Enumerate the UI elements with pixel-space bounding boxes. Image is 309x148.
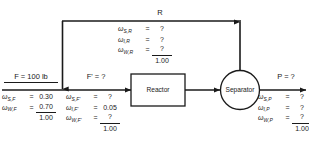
composition-value: ? — [152, 44, 172, 56]
omega-symbol: ωI,P — [258, 103, 283, 114]
omega-symbol: ωI,F' — [66, 103, 91, 114]
combined-feed-stream-label: F' = ? — [72, 72, 120, 81]
composition-row: ωS,F' = ? — [66, 92, 120, 103]
equals-sign: = — [143, 24, 152, 35]
composition-total: 1.00 — [152, 56, 172, 67]
omega-symbol: ωS,F' — [66, 92, 91, 103]
recycle-stream-label: R — [138, 8, 182, 17]
omega-symbol: ωS,R — [118, 24, 143, 35]
composition-value: ? — [292, 112, 309, 124]
composition-row: ωW,P = ? — [258, 113, 309, 124]
equals-sign: = — [91, 103, 100, 114]
composition-total: 1.00 — [100, 124, 120, 135]
process-flow-diagram: Reactor Separator R ωS,R = ? ωI,R = ? ωW… — [0, 0, 309, 148]
equals-sign: = — [27, 103, 36, 114]
composition-row: ωW,F' = ? — [66, 113, 120, 124]
equals-sign: = — [143, 35, 152, 46]
equals-sign: = — [283, 92, 292, 103]
recycle-composition: ωS,R = ? ωI,R = ? ωW,R = ? 1.00 — [118, 24, 172, 66]
equals-sign: = — [283, 103, 292, 114]
feed-composition: ωS,F = 0.30 ωW,F = 0.70 1.00 — [2, 92, 56, 124]
composition-row: ωS,P = ? — [258, 92, 309, 103]
composition-total: 1.00 — [292, 124, 309, 135]
composition-total: 1.00 — [36, 113, 56, 124]
composition-row: ωW,F = 0.70 — [2, 103, 56, 114]
omega-symbol: ωW,F' — [66, 113, 91, 124]
equals-sign: = — [91, 92, 100, 103]
omega-symbol: ωW,R — [118, 45, 143, 56]
composition-value: 0.70 — [36, 102, 56, 114]
combined-feed-composition: ωS,F' = ? ωI,F' = 0.05 ωW,F' = ? 1.00 — [66, 92, 120, 134]
equals-sign: = — [143, 45, 152, 56]
composition-row: ωW,R = ? — [118, 45, 172, 56]
composition-value: ? — [152, 24, 172, 35]
product-stream-label: P = ? — [266, 72, 306, 81]
composition-value: ? — [100, 92, 120, 103]
composition-total-row: 1.00 — [2, 113, 56, 124]
composition-row: ωS,R = ? — [118, 24, 172, 35]
composition-total-row: 1.00 — [66, 124, 120, 135]
reactor-label: Reactor — [131, 86, 185, 93]
omega-symbol: ωI,R — [118, 35, 143, 46]
equals-sign: = — [27, 92, 36, 103]
equals-sign: = — [283, 113, 292, 124]
omega-symbol: ωS,F — [2, 92, 27, 103]
composition-total-row: 1.00 — [258, 124, 309, 135]
omega-symbol: ωW,P — [258, 113, 283, 124]
equals-sign: = — [91, 113, 100, 124]
composition-value: ? — [292, 92, 309, 103]
omega-symbol: ωW,F — [2, 103, 27, 114]
omega-symbol: ωS,P — [258, 92, 283, 103]
feed-stream-label: F = 100 lb — [4, 72, 58, 83]
product-composition: ωS,P = ? ωI,P = ? ωW,P = ? 1.00 — [258, 92, 309, 134]
composition-total-row: 1.00 — [118, 56, 172, 67]
composition-value: ? — [100, 112, 120, 124]
